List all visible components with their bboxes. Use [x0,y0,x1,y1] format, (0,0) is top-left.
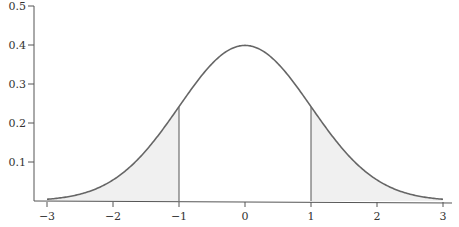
x-tick-label: −2 [105,210,121,223]
x-tick-label: 2 [374,210,381,223]
y-tick-label: 0.4 [9,39,27,52]
x-tick-label: −1 [171,210,187,223]
y-tick-label: 0.5 [9,0,27,13]
y-tick-label: 0.3 [9,78,27,91]
y-tick-label: 0.2 [9,117,27,130]
x-tick-label: 0 [242,210,249,223]
y-axis-ticks: 0.10.20.30.40.5 [9,0,35,169]
x-axis [34,201,452,203]
vertical-lines [179,107,311,201]
shaded-region-left [47,107,179,201]
y-tick-label: 0.1 [9,156,27,169]
shaded-regions [47,107,443,201]
shaded-region-right [311,107,443,201]
x-tick-label: −3 [39,210,55,223]
x-tick-label: 1 [308,210,315,223]
normal-distribution-chart: −3−2−10123 0.10.20.30.40.5 [0,0,459,227]
x-tick-label: 3 [440,210,447,223]
x-axis-ticks: −3−2−10123 [39,202,447,223]
density-curve [47,45,443,199]
